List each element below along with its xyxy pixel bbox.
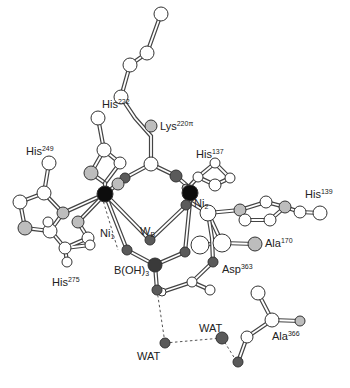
- label-his137: His137: [196, 148, 224, 160]
- label-ala366: Ala366: [272, 330, 300, 342]
- label-his249: His249: [26, 145, 54, 157]
- label-wat-upper: WAT: [199, 323, 222, 334]
- atoms: [13, 7, 327, 367]
- label-his139: His139: [305, 188, 333, 200]
- label-his222: His222: [102, 98, 130, 110]
- label-asp363: Asp363: [222, 263, 253, 275]
- label-ala170: Ala170: [265, 237, 293, 249]
- label-wb: WB: [140, 226, 155, 238]
- label-boh3: B(OH)3: [114, 265, 149, 277]
- label-ni2: Ni2: [194, 198, 208, 210]
- label-wat-lower: WAT: [137, 351, 160, 362]
- label-lys220: Lys220π: [160, 120, 193, 132]
- label-his275: His275: [52, 276, 80, 288]
- bonds: [20, 14, 320, 362]
- label-ni1: Ni1: [100, 228, 114, 240]
